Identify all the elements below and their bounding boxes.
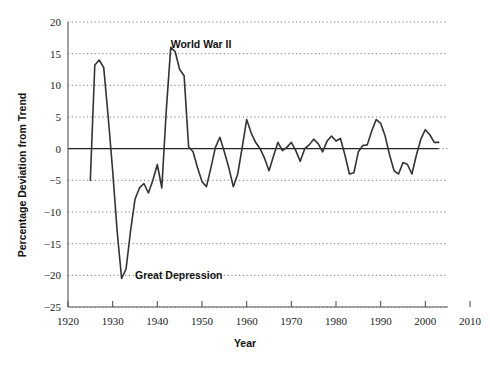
deviation-from-trend-line-chart: 20151050−5−10−15−20−25 19201930194019501… <box>0 0 490 370</box>
data-series <box>90 47 438 278</box>
series-line <box>90 47 438 278</box>
x-tick-label: 1980 <box>325 315 348 327</box>
y-tick-label: 5 <box>56 111 62 123</box>
x-tick-label: 1930 <box>102 315 125 327</box>
x-tick-label: 2010 <box>459 315 482 327</box>
y-tick-label: 20 <box>50 16 62 28</box>
grid-lines <box>68 22 448 307</box>
y-tick-labels: 20151050−5−10−15−20−25 <box>44 16 62 313</box>
y-tick-label: −15 <box>44 238 62 250</box>
x-axis <box>68 301 470 307</box>
y-tick-label: −25 <box>44 301 62 313</box>
chart-figure: 20151050−5−10−15−20−25 19201930194019501… <box>0 0 490 370</box>
y-tick-label: −20 <box>44 269 62 281</box>
y-tick-label: 0 <box>56 143 62 155</box>
x-tick-label: 1990 <box>370 315 393 327</box>
x-tick-label: 1940 <box>146 315 169 327</box>
x-tick-label: 1970 <box>280 315 303 327</box>
y-axis-title: Percentage Deviation from Trend <box>16 93 28 258</box>
x-tick-label: 1920 <box>57 315 80 327</box>
x-tick-label: 2000 <box>414 315 437 327</box>
y-tick-label: 15 <box>50 48 62 60</box>
x-tick-labels: 1920193019401950196019701980199020002010 <box>57 315 482 327</box>
x-axis-title: Year <box>234 337 256 349</box>
y-tick-label: 10 <box>50 79 62 91</box>
annotation-label: World War II <box>171 38 232 50</box>
x-tick-label: 1960 <box>236 315 259 327</box>
x-tick-label: 1950 <box>191 315 214 327</box>
y-tick-label: −10 <box>44 206 62 218</box>
annotation-label: Great Depression <box>135 269 223 281</box>
y-tick-label: −5 <box>49 174 61 186</box>
